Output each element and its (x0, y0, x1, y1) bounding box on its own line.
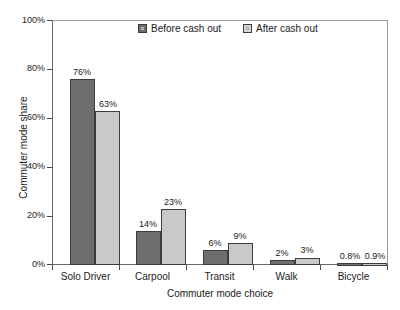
bar-value-solo-driver-before: 76% (62, 67, 102, 77)
legend-swatch-before-icon (138, 24, 147, 33)
bar-value-carpool-before: 14% (128, 219, 168, 229)
bar-bicycle-before[interactable] (337, 263, 362, 266)
x-tick-mark-3 (253, 265, 254, 270)
bar-value-solo-driver-after: 63% (88, 99, 128, 109)
bar-carpool-before[interactable] (136, 231, 161, 265)
x-tick-mark-2 (186, 265, 187, 270)
bar-transit-before[interactable] (203, 250, 228, 265)
y-axis-title: Commuter mode share (18, 58, 29, 238)
x-tick-label-solo-driver: Solo Driver (52, 271, 119, 282)
y-tick-label-100: 100% (5, 15, 45, 25)
bar-bicycle-after[interactable] (362, 263, 387, 266)
x-tick-label-transit: Transit (186, 271, 253, 282)
x-tick-mark-0 (52, 265, 53, 270)
chart-legend: Before cash out After cash out (138, 23, 318, 34)
bar-walk-before[interactable] (270, 260, 295, 265)
x-tick-label-walk: Walk (253, 271, 320, 282)
bar-chart-figure: 100% 80% 60% 40% 20% 0% Commuter mode sh… (0, 0, 400, 310)
legend-label-before: Before cash out (151, 23, 221, 34)
bar-carpool-after[interactable] (161, 209, 186, 265)
x-tick-label-bicycle: Bicycle (320, 271, 387, 282)
bar-walk-after[interactable] (295, 258, 320, 265)
legend-label-after: After cash out (256, 23, 318, 34)
bar-value-walk-after: 3% (287, 245, 327, 255)
legend-entry-before[interactable]: Before cash out (138, 23, 221, 34)
bar-value-bicycle-after: 0.9% (355, 251, 395, 261)
bar-value-transit-after: 9% (220, 231, 260, 241)
x-tick-mark-4 (320, 265, 321, 270)
legend-entry-after[interactable]: After cash out (243, 23, 318, 34)
y-tick-label-0: 0% (5, 259, 45, 269)
x-tick-mark-1 (119, 265, 120, 270)
legend-swatch-after-icon (243, 24, 252, 33)
x-tick-mark-5 (387, 265, 388, 270)
x-tick-label-carpool: Carpool (119, 271, 186, 282)
bar-value-carpool-after: 23% (153, 197, 193, 207)
x-axis-title: Commuter mode choice (52, 288, 388, 299)
bar-solo-driver-after[interactable] (95, 111, 120, 265)
